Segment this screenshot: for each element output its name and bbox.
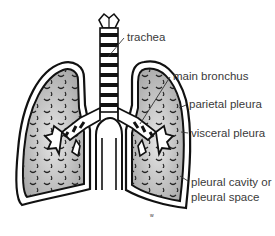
label-pleural-cavity: pleural cavity or [191, 176, 272, 189]
mediastinum [96, 118, 122, 190]
label-trachea: trachea [127, 31, 165, 44]
artist-mark: w [150, 212, 154, 218]
label-main-bronchus: main bronchus [173, 70, 248, 83]
label-pleural-space: pleural space [191, 191, 259, 204]
label-visceral-pleura: visceral pleura [191, 127, 265, 140]
label-parietal-pleura: parietal pleura [189, 98, 262, 111]
trachea [99, 14, 119, 112]
